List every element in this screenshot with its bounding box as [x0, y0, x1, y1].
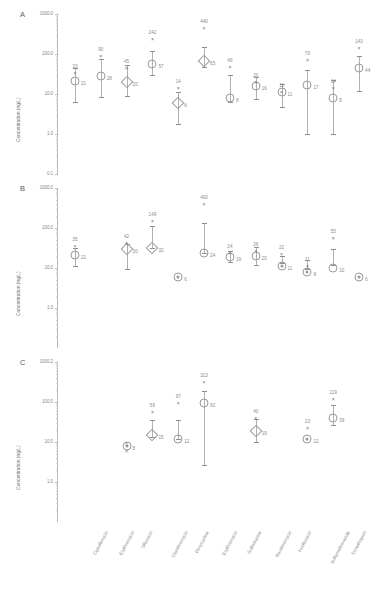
y-axis-minor-tick — [56, 296, 58, 297]
y-axis-minor-tick — [56, 371, 58, 372]
y-axis-minor-tick — [56, 56, 58, 57]
error-bar-cap-lower — [331, 425, 336, 426]
y-axis-minor-tick — [56, 237, 58, 238]
y-axis-minor-tick — [56, 423, 58, 424]
y-axis-minor-tick — [56, 364, 58, 365]
mean-marker: × — [203, 201, 206, 206]
x-axis-label: Erythromycin — [221, 530, 238, 556]
median-value-label: 20 — [262, 255, 267, 260]
y-axis-minor-tick — [56, 486, 58, 487]
mean-value-label: 56 — [150, 403, 155, 408]
error-bar-cap-lower — [202, 465, 207, 466]
mean-value-label: 40 — [253, 408, 258, 413]
median-marker — [200, 399, 209, 408]
error-bar-cap-lower — [150, 75, 155, 76]
mean-marker: × — [254, 249, 257, 254]
y-axis-minor-tick — [56, 234, 58, 235]
error-bar-cap-upper — [331, 405, 336, 406]
median-marker — [172, 96, 185, 109]
median-value-label: 17 — [313, 84, 318, 89]
y-axis-minor-tick — [56, 18, 58, 19]
y-axis-minor-tick — [56, 336, 58, 337]
mean-marker: × — [203, 26, 206, 31]
mean-marker: × — [125, 448, 128, 453]
median-value-label: 12 — [184, 438, 189, 443]
mean-value-label: 11 — [305, 257, 310, 262]
mean-value-label: 55 — [331, 229, 336, 234]
y-axis-minor-tick — [56, 312, 58, 313]
mean-marker: × — [228, 250, 231, 255]
y-axis-label: Concentration (ng/L) — [16, 271, 21, 316]
median-value-label: 11 — [288, 266, 293, 271]
y-axis-minor-tick — [56, 110, 58, 111]
y-axis-minor-tick — [56, 42, 58, 43]
error-bar-cap-upper — [202, 391, 207, 392]
y-axis-tick-label: 100.0 — [23, 51, 53, 56]
error-bar-cap-lower — [254, 265, 259, 266]
y-axis-minor-tick — [56, 138, 58, 139]
mean-value-label: 46 — [227, 58, 232, 63]
median-marker — [120, 76, 133, 89]
error-bar-cap-upper — [202, 47, 207, 48]
median-value-label: 24 — [210, 252, 215, 257]
x-axis-label: Ofloxacin — [140, 530, 153, 549]
median-marker — [200, 248, 209, 257]
y-axis-tick-label: 10.0 — [23, 91, 53, 96]
mean-marker: × — [306, 58, 309, 63]
mean-value-label: 42 — [124, 234, 129, 239]
y-axis-minor-tick — [56, 498, 58, 499]
y-axis-minor-tick — [56, 274, 58, 275]
y-axis-minor-tick — [56, 470, 58, 471]
median-marker — [146, 241, 159, 254]
mean-marker: × — [280, 252, 283, 257]
mean-marker: × — [306, 425, 309, 430]
y-axis-minor-tick — [56, 411, 58, 412]
error-bar-cap-upper — [176, 92, 181, 93]
median-marker — [225, 93, 234, 102]
y-axis-minor-tick — [56, 197, 58, 198]
y-axis-minor-tick — [56, 310, 58, 311]
error-bar-cap-upper — [305, 70, 310, 71]
median-value-label: 28 — [107, 76, 112, 81]
mean-value-label: 440 — [200, 19, 208, 24]
y-axis-minor-tick — [56, 143, 58, 144]
median-value-label: 30 — [133, 248, 138, 253]
median-marker — [70, 77, 79, 86]
mean-marker: × — [332, 86, 335, 91]
mean-value-label: 97 — [176, 393, 181, 398]
mean-value-label: 14 — [176, 79, 181, 84]
y-axis-tick — [55, 174, 58, 175]
y-axis-minor-tick — [56, 390, 58, 391]
y-axis-minor-tick — [56, 378, 58, 379]
mean-value-label: 90 — [98, 46, 103, 51]
median-marker — [329, 93, 338, 102]
mean-value-label: 22 — [279, 245, 284, 250]
mean-value-label: 24 — [227, 243, 232, 248]
error-bar-cap-upper — [228, 75, 233, 76]
y-axis-minor-tick — [56, 230, 58, 231]
y-axis-minor-tick — [56, 140, 58, 141]
y-axis-minor-tick — [56, 454, 58, 455]
y-axis-minor-tick — [56, 324, 58, 325]
median-marker — [70, 251, 79, 260]
x-axis-label: Doxycycline — [194, 530, 210, 554]
error-bar-cap-lower — [176, 124, 181, 125]
error-bar-cap-lower — [254, 442, 259, 443]
y-axis-tick-label: 1.0 — [23, 131, 53, 136]
mean-marker: × — [332, 236, 335, 241]
y-axis-tick-label: 10.0 — [23, 265, 53, 270]
mean-value-label: 6 — [125, 441, 128, 446]
y-axis-minor-tick — [56, 82, 58, 83]
y-axis-minor-tick — [56, 284, 58, 285]
y-axis-tick-label: 1.0 — [23, 305, 53, 310]
median-value-label: 11 — [288, 92, 293, 97]
mean-marker: × — [151, 219, 154, 224]
median-marker — [329, 264, 338, 273]
median-value-label: 12 — [313, 438, 318, 443]
mean-value-label: 242 — [149, 29, 157, 34]
y-axis-minor-tick — [56, 408, 58, 409]
y-axis-minor-tick — [56, 103, 58, 104]
y-axis-minor-tick — [56, 249, 58, 250]
y-axis-minor-tick — [56, 16, 58, 17]
y-axis-minor-tick — [56, 244, 58, 245]
